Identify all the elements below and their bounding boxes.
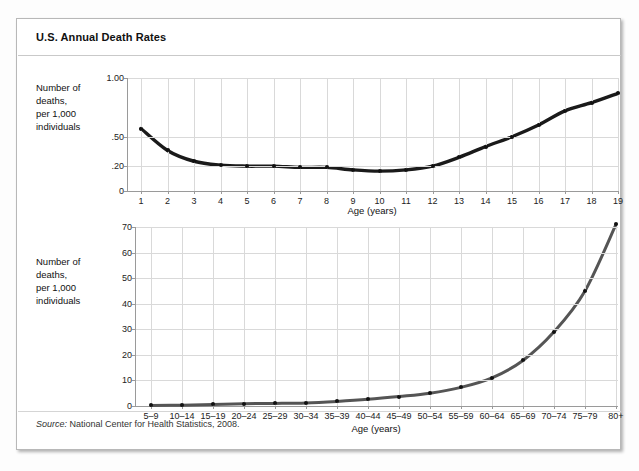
gridline-vertical — [244, 227, 245, 406]
x-axis-tick-mark — [433, 191, 434, 194]
chart1-x-axis-label: Age (years) — [347, 205, 396, 216]
x-axis-tick-mark — [194, 191, 195, 194]
page-title: U.S. Annual Death Rates — [36, 31, 166, 43]
chart1-series-line — [128, 78, 618, 191]
y-axis-tick-mark — [132, 329, 136, 330]
chart2-y-axis-caption: Number ofdeaths,per 1,000individuals — [36, 255, 80, 307]
gridline-horizontal — [136, 253, 618, 254]
gridline-horizontal — [128, 78, 618, 79]
gridline-horizontal — [136, 329, 618, 330]
x-axis-tick-mark — [565, 191, 566, 194]
data-point — [590, 101, 594, 105]
gridline-vertical — [616, 227, 617, 406]
gridline-vertical — [592, 78, 593, 191]
gridline-vertical — [585, 227, 586, 406]
gridline-vertical — [523, 227, 524, 406]
gridline-vertical — [337, 227, 338, 406]
x-axis-tick-mark — [275, 406, 276, 409]
x-axis-tick-label: 25–29 — [262, 411, 287, 421]
y-axis-tick-mark — [132, 355, 136, 356]
caption-line: per 1,000 — [36, 281, 80, 294]
x-axis-tick-mark — [592, 191, 593, 194]
chart1-plot-area: 0.20.501.0012345678910111213141516171819 — [127, 78, 618, 192]
x-axis-tick-label: 50–54 — [417, 411, 442, 421]
caption-line: deaths, — [36, 94, 80, 107]
x-axis-tick-label: 8 — [324, 196, 329, 206]
gridline-vertical — [300, 78, 301, 191]
x-axis-tick-mark — [327, 191, 328, 194]
data-point — [563, 109, 567, 113]
y-axis-tick-mark — [132, 304, 136, 305]
x-axis-tick-label: 13 — [454, 196, 464, 206]
gridline-vertical — [327, 78, 328, 191]
x-axis-tick-label: 80+ — [608, 411, 623, 421]
data-point — [242, 402, 246, 406]
x-axis-tick-label: 14 — [480, 196, 490, 206]
x-axis-tick-label: 16 — [533, 196, 543, 206]
x-axis-tick-mark — [459, 191, 460, 194]
gridline-vertical — [539, 78, 540, 191]
data-point — [139, 127, 143, 131]
gridline-horizontal — [128, 166, 618, 167]
y-axis-tick-label: 40 — [122, 299, 132, 309]
data-point — [537, 123, 541, 127]
title-divider — [18, 55, 621, 56]
x-axis-tick-mark — [368, 406, 369, 409]
x-axis-tick-label: 70–74 — [541, 411, 566, 421]
gridline-horizontal — [136, 355, 618, 356]
source-label: Source: — [36, 419, 67, 429]
x-axis-tick-mark — [221, 191, 222, 194]
gridline-vertical — [151, 227, 152, 406]
gridline-vertical — [459, 78, 460, 191]
y-axis-tick-mark — [132, 406, 136, 407]
y-axis-tick-mark — [124, 191, 128, 192]
x-axis-tick-mark — [585, 406, 586, 409]
gridline-horizontal — [136, 227, 618, 228]
x-axis-tick-mark — [486, 191, 487, 194]
x-axis-tick-label: 17 — [560, 196, 570, 206]
data-point — [351, 168, 355, 172]
x-axis-tick-label: 60–64 — [479, 411, 504, 421]
x-axis-tick-mark — [430, 406, 431, 409]
gridline-vertical — [433, 78, 434, 191]
y-axis-tick-label: 60 — [122, 248, 132, 258]
gridline-vertical — [247, 78, 248, 191]
chart2-series-line — [136, 227, 618, 406]
x-axis-tick-mark — [300, 191, 301, 194]
y-axis-tick-label: 50 — [122, 273, 132, 283]
chart2-x-axis-label: Age (years) — [351, 423, 400, 434]
y-axis-tick-label: 20 — [122, 350, 132, 360]
gridline-vertical — [306, 227, 307, 406]
y-axis-tick-label: 10 — [122, 375, 132, 385]
chart-card: U.S. Annual Death Rates Number ofdeaths,… — [16, 18, 621, 450]
data-point — [428, 391, 432, 395]
chart2-plot-area: 0102030405060705–910–1415–1920–2425–2930… — [135, 227, 618, 407]
x-axis-tick-mark — [353, 191, 354, 194]
data-point — [616, 91, 620, 95]
data-point — [366, 397, 370, 401]
caption-line: Number of — [36, 81, 80, 94]
data-point — [335, 399, 339, 403]
x-axis-tick-mark — [523, 406, 524, 409]
x-axis-tick-label: 18 — [586, 196, 596, 206]
source-divider — [18, 411, 621, 412]
x-axis-tick-mark — [616, 406, 617, 409]
x-axis-tick-mark — [512, 191, 513, 194]
x-axis-tick-label: 45–49 — [386, 411, 411, 421]
data-point — [272, 164, 276, 168]
gridline-vertical — [182, 227, 183, 406]
caption-line: individuals — [36, 120, 80, 133]
x-axis-tick-mark — [141, 191, 142, 194]
gridline-vertical — [213, 227, 214, 406]
caption-line: Number of — [36, 255, 80, 268]
data-point — [149, 403, 153, 407]
data-point — [304, 401, 308, 405]
gridline-vertical — [461, 227, 462, 406]
data-point — [431, 164, 435, 168]
y-axis-tick-label: 30 — [122, 324, 132, 334]
data-point — [298, 165, 302, 169]
x-axis-tick-mark — [406, 191, 407, 194]
caption-line: individuals — [36, 294, 80, 307]
x-axis-tick-mark — [461, 406, 462, 409]
x-axis-tick-label: 11 — [401, 196, 410, 206]
